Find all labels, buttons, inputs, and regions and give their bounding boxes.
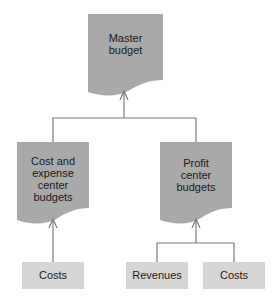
connector-bracket-top bbox=[53, 118, 196, 142]
connector-bracket-bottom bbox=[157, 243, 234, 262]
label-line: expense bbox=[17, 167, 89, 179]
label-line: Profit bbox=[160, 157, 232, 169]
label-line: Cost and bbox=[17, 155, 89, 167]
label-line: center bbox=[17, 179, 89, 191]
cost-expense-center-label: Cost and expense center budgets bbox=[17, 155, 89, 203]
label-line: budgets bbox=[160, 181, 232, 193]
profit-center-label: Profit center budgets bbox=[160, 157, 232, 193]
label-line: budget bbox=[88, 44, 163, 56]
label-line: budgets bbox=[17, 191, 89, 203]
master-budget-label: Master budget bbox=[88, 32, 163, 56]
label-line: center bbox=[160, 169, 232, 181]
costs-right-label: Costs bbox=[203, 269, 265, 281]
revenues-label: Revenues bbox=[126, 269, 188, 281]
label-line: Master bbox=[88, 32, 163, 44]
costs-left-label: Costs bbox=[22, 269, 84, 281]
